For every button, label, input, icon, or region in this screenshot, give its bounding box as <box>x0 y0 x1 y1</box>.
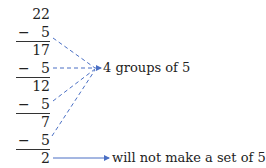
dashed-arrow <box>53 69 95 101</box>
arrows-layer <box>0 0 266 168</box>
dashed-arrow <box>52 70 95 136</box>
groups-label: 4 groups of 5 <box>103 60 190 76</box>
remainder-label: will not make a set of 5 <box>112 150 266 166</box>
dashed-arrow-group <box>52 38 95 136</box>
dashed-arrow <box>53 38 95 68</box>
